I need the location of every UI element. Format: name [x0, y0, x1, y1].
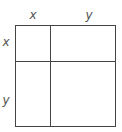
cell-x-by-y: [51, 26, 115, 61]
vertical-divider: [50, 25, 52, 127]
top-label-x: x: [29, 9, 36, 21]
side-label-y: y: [2, 94, 9, 106]
cell-y-by-y: [51, 62, 115, 126]
top-label-y: y: [85, 9, 92, 21]
side-label-x: x: [2, 36, 9, 48]
horizontal-divider: [15, 61, 116, 63]
cell-x-by-x: [16, 26, 50, 61]
cell-y-by-x: [16, 62, 50, 126]
